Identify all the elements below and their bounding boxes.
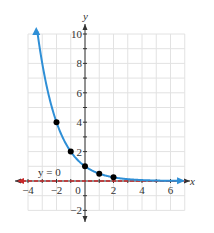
- svg-text:−4: −4: [22, 184, 34, 196]
- svg-text:2: 2: [77, 146, 83, 158]
- svg-text:4: 4: [139, 184, 145, 196]
- svg-text:−2: −2: [51, 184, 63, 196]
- curve: [37, 31, 179, 181]
- svg-text:8: 8: [77, 57, 83, 69]
- svg-text:6: 6: [168, 184, 174, 196]
- svg-text:10: 10: [71, 28, 83, 40]
- x-axis-label: x: [189, 175, 195, 187]
- asymptote-label: y = 0: [38, 166, 61, 178]
- svg-text:2: 2: [111, 184, 117, 196]
- svg-text:4: 4: [77, 116, 83, 128]
- svg-text:−2: −2: [70, 204, 82, 216]
- svg-text:0: 0: [75, 184, 81, 196]
- svg-text:6: 6: [77, 87, 83, 99]
- exponential-chart: −4−20246−2246810 y = 0 x y: [0, 0, 214, 233]
- y-axis-label: y: [82, 10, 88, 22]
